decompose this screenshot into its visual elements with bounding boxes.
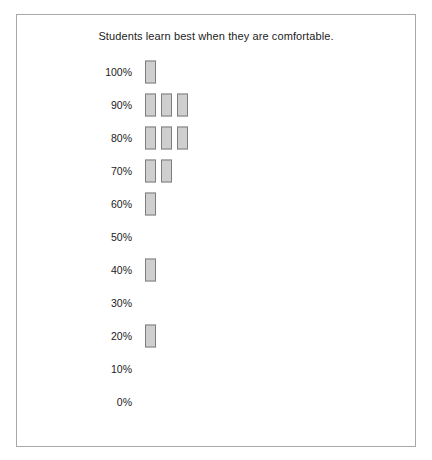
bar-mark: [145, 324, 156, 347]
chart-panel: Students learn best when they are comfor…: [16, 14, 416, 447]
chart-row: 70%: [17, 154, 415, 187]
row-label: 90%: [72, 99, 132, 111]
chart-row: 60%: [17, 187, 415, 220]
chart-row: 90%: [17, 88, 415, 121]
clipped-text-remnant: [0, 0, 432, 7]
chart-row: 30%: [17, 286, 415, 319]
chart-row: 10%: [17, 352, 415, 385]
row-label: 60%: [72, 198, 132, 210]
bar-mark: [145, 60, 156, 83]
row-label: 100%: [72, 66, 132, 78]
bar-mark: [161, 159, 172, 182]
row-label: 20%: [72, 330, 132, 342]
row-label: 80%: [72, 132, 132, 144]
row-bars: [145, 126, 188, 149]
row-bars: [145, 159, 172, 182]
bar-mark: [177, 126, 188, 149]
row-label: 30%: [72, 297, 132, 309]
chart-title: Students learn best when they are comfor…: [17, 30, 415, 42]
chart-row: 100%: [17, 55, 415, 88]
chart-plot-area: 100%90%80%70%60%50%40%30%20%10%0%: [17, 55, 415, 418]
chart-row: 80%: [17, 121, 415, 154]
row-bars: [145, 324, 156, 347]
bar-mark: [145, 258, 156, 281]
bar-mark: [177, 93, 188, 116]
row-label: 40%: [72, 264, 132, 276]
chart-row: 50%: [17, 220, 415, 253]
bar-mark: [145, 126, 156, 149]
bar-mark: [161, 93, 172, 116]
chart-row: 0%: [17, 385, 415, 418]
row-label: 0%: [72, 396, 132, 408]
row-label: 10%: [72, 363, 132, 375]
row-bars: [145, 93, 188, 116]
chart-row: 40%: [17, 253, 415, 286]
row-label: 50%: [72, 231, 132, 243]
bar-mark: [145, 159, 156, 182]
chart-row: 20%: [17, 319, 415, 352]
row-bars: [145, 192, 156, 215]
bar-mark: [161, 126, 172, 149]
bar-mark: [145, 192, 156, 215]
bar-mark: [145, 93, 156, 116]
row-label: 70%: [72, 165, 132, 177]
row-bars: [145, 60, 156, 83]
row-bars: [145, 258, 156, 281]
